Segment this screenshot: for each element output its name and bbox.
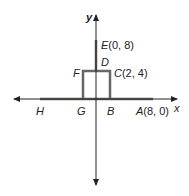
point-h-label: H xyxy=(36,105,44,117)
point-b-label: B xyxy=(107,105,114,117)
coordinate-diagram: y x E(0, 8) D F C(2, 4) H G B A(8, 0) xyxy=(0,0,189,196)
x-axis-label: x xyxy=(173,102,180,114)
point-a-label: A(8, 0) xyxy=(135,105,169,117)
y-axis-label: y xyxy=(85,11,93,23)
point-f-label: F xyxy=(73,67,81,79)
point-g-label: G xyxy=(77,105,86,117)
point-c-label: C(2, 4) xyxy=(114,67,148,79)
point-d-label: D xyxy=(101,56,109,68)
point-e-label: E(0, 8) xyxy=(101,39,134,51)
